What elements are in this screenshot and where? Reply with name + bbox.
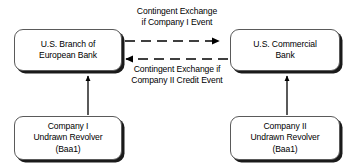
node-company-ii-undrawn-revolver: Company II Undrawn Revolver (Baa1): [230, 116, 340, 160]
node-company-i-undrawn-revolver: Company I Undrawn Revolver (Baa1): [14, 116, 122, 160]
diagram-canvas: U.S. Branch of European Bank U.S. Commer…: [0, 0, 358, 168]
node-label: Company I Undrawn Revolver (Baa1): [33, 121, 102, 155]
node-label: Company II Undrawn Revolver (Baa1): [250, 121, 319, 155]
node-label: U.S. Branch of European Bank: [39, 39, 97, 61]
node-label: U.S. Commercial Bank: [253, 39, 316, 61]
edge-label-top: Contingent Exchange if Company I Event: [113, 6, 241, 28]
node-us-commercial-bank: U.S. Commercial Bank: [230, 29, 340, 71]
node-us-branch-european-bank: U.S. Branch of European Bank: [14, 29, 122, 71]
edge-label-bottom: Contingent Exchange if Company II Credit…: [110, 64, 244, 86]
